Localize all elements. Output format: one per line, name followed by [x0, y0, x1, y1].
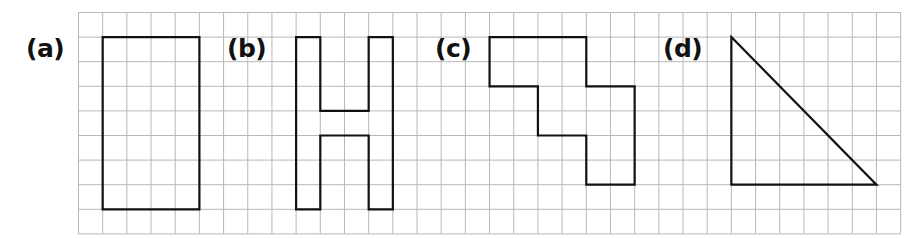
- label-b: (b): [227, 34, 266, 64]
- label-c: (c): [435, 34, 471, 64]
- label-d: (d): [663, 34, 702, 64]
- label-a: (a): [26, 34, 64, 64]
- grid-figure: (a) (b) (c) (d): [0, 0, 918, 238]
